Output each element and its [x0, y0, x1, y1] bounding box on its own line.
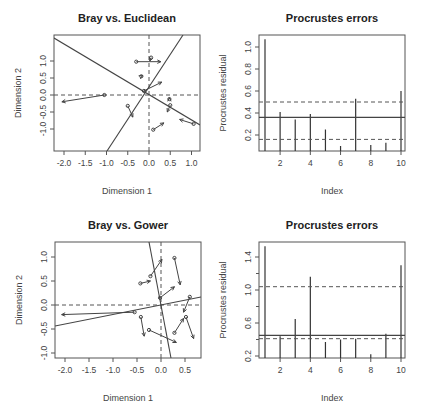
plot-frame — [259, 35, 405, 151]
x-tick-label: -0.5 — [130, 365, 145, 375]
y-tick-label: 0.0 — [38, 89, 48, 101]
y-tick-label: 0.8 — [243, 63, 253, 75]
panel-4: Procrustes errorsIndexProcrustes residua… — [218, 219, 406, 403]
x-tick-label: 4 — [308, 158, 313, 168]
y-axis-label: Procrustes residual — [218, 54, 228, 131]
chart-title: Bray vs. Euclidean — [78, 12, 176, 24]
rotation-axis-line — [107, 35, 183, 151]
x-axis-label: Index — [321, 186, 344, 196]
y-tick-label: 1.0 — [38, 55, 48, 67]
procrustes-arrow — [62, 312, 135, 314]
x-tick-label: -0.5 — [120, 158, 135, 168]
x-tick-label: -1.0 — [99, 158, 114, 168]
x-tick-label: 8 — [368, 365, 373, 375]
rotation-axis-line — [54, 38, 200, 125]
x-axis-label: Index — [321, 393, 344, 403]
y-tick-label: 0.6 — [243, 85, 253, 97]
x-tick-label: 8 — [368, 158, 373, 168]
rotation-axis-line — [149, 242, 171, 358]
y-tick-label: 0.2 — [243, 350, 253, 362]
y-axis-label: Dimension 2 — [13, 68, 23, 118]
x-tick-label: 2 — [278, 158, 283, 168]
y-tick-label: 0.0 — [39, 299, 49, 311]
chart-title: Procrustes errors — [286, 219, 378, 231]
y-tick-label: 0.5 — [38, 72, 48, 84]
plot-frame — [259, 242, 405, 358]
x-axis-label: Dimension 1 — [102, 186, 152, 196]
y-tick-label: -0.5 — [38, 104, 48, 119]
x-tick-label: 0.5 — [179, 365, 191, 375]
x-axis-label: Dimension 1 — [103, 393, 153, 403]
x-tick-label: 10 — [396, 158, 406, 168]
chart-title: Procrustes errors — [286, 12, 378, 24]
x-tick-label: -1.0 — [106, 365, 121, 375]
y-tick-label: 1.0 — [39, 251, 49, 263]
y-tick-label: 0.5 — [39, 275, 49, 287]
procrustes-arrow — [160, 287, 174, 298]
panel-2: Procrustes errorsIndexProcrustes residua… — [218, 12, 406, 196]
panel-1: Bray vs. EuclideanDimension 1Dimension 2… — [13, 12, 200, 196]
plot-frame — [54, 35, 200, 151]
x-tick-label: -1.5 — [78, 158, 93, 168]
rotation-axis-line — [55, 297, 201, 326]
x-tick-label: 10 — [396, 365, 406, 375]
y-tick-label: 1.0 — [243, 284, 253, 296]
panel-3: Bray vs. GowerDimension 1Dimension 2-2.0… — [14, 219, 201, 403]
procrustes-arrow — [186, 317, 194, 339]
procrustes-figure: Bray vs. EuclideanDimension 1Dimension 2… — [0, 0, 421, 410]
y-tick-label: -1.0 — [38, 121, 48, 136]
chart-title: Bray vs. Gower — [88, 219, 169, 231]
x-tick-label: 6 — [338, 158, 343, 168]
x-tick-label: 0.0 — [155, 365, 167, 375]
x-tick-label: 1.0 — [186, 158, 198, 168]
x-tick-label: -2.0 — [58, 365, 73, 375]
procrustes-arrow — [144, 82, 162, 91]
x-tick-label: 6 — [338, 365, 343, 375]
x-tick-label: -1.5 — [82, 365, 97, 375]
procrustes-arrow — [149, 330, 176, 342]
procrustes-arrow — [174, 258, 180, 285]
y-tick-label: 1.4 — [243, 251, 253, 263]
procrustes-arrow — [150, 259, 162, 276]
y-tick-label: 0.2 — [243, 129, 253, 141]
y-axis-label: Dimension 2 — [14, 275, 24, 325]
x-tick-label: -2.0 — [57, 158, 72, 168]
y-tick-label: -1.0 — [39, 345, 49, 360]
x-tick-label: 2 — [278, 365, 283, 375]
x-tick-label: 0.5 — [164, 158, 176, 168]
procrustes-arrow — [62, 95, 105, 102]
x-tick-label: 4 — [308, 365, 313, 375]
plot-frame — [55, 242, 201, 358]
y-tick-label: 1.0 — [243, 41, 253, 53]
y-tick-label: 0.4 — [243, 107, 253, 119]
y-tick-label: -0.5 — [39, 321, 49, 336]
y-tick-label: 0.6 — [243, 317, 253, 329]
procrustes-arrow — [174, 318, 183, 332]
y-axis-label: Procrustes residual — [218, 261, 228, 338]
x-tick-label: 0.0 — [143, 158, 155, 168]
